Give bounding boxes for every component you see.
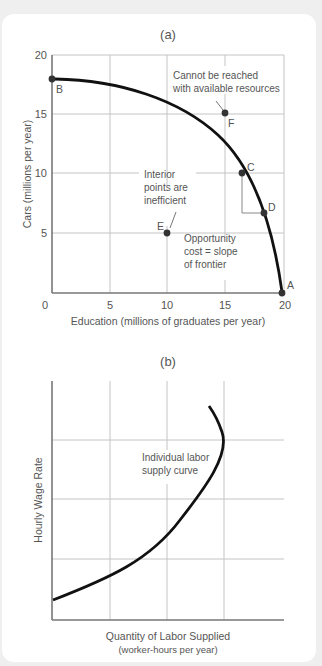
opportunity-cost-bracket	[242, 173, 264, 213]
note-opportunity-line2: cost = slope	[184, 246, 238, 257]
note-opportunity-line3: of frontier	[184, 259, 227, 270]
x-tick-0: 0	[42, 299, 48, 311]
label-d: D	[268, 201, 276, 213]
curve-label-line1: Individual labor	[142, 452, 210, 463]
label-a: A	[287, 279, 294, 291]
y-tick-20: 20	[35, 49, 47, 61]
note-interior-line1: Interior	[144, 169, 176, 180]
grid-b	[52, 381, 284, 620]
note-unreachable-line1: Cannot be reached	[173, 70, 258, 81]
label-f: F	[228, 117, 234, 129]
chart-b: (b) Individual labor supply curve Hourly…	[32, 354, 284, 655]
x-tick-15: 15	[219, 299, 231, 311]
label-e: E	[157, 220, 164, 232]
y-tick-15: 15	[35, 108, 47, 120]
figure-svg: (a) 20 15 10 5 0 5 10 15 20	[0, 0, 322, 666]
label-b: B	[56, 83, 63, 95]
note-interior-line3: inefficient	[144, 195, 186, 206]
y-tick-5: 5	[41, 227, 47, 239]
point-b	[49, 76, 56, 83]
note-unreachable-line2: with available resources	[172, 83, 280, 94]
point-a	[279, 290, 286, 297]
labor-supply-curve	[53, 406, 224, 600]
x-tick-20: 20	[279, 299, 291, 311]
chart-a: (a) 20 15 10 5 0 5 10 15 20	[21, 27, 294, 327]
y-axis-label-a: Cars (millions per year)	[21, 120, 33, 229]
curve-label-line2: supply curve	[142, 465, 199, 476]
point-d	[261, 210, 268, 217]
note-interior-line2: points are	[144, 182, 188, 193]
y-tick-10: 10	[35, 167, 47, 179]
note-opportunity-line1: Opportunity	[184, 233, 236, 244]
y-axis-label-b: Hourly Wage Rate	[32, 457, 44, 543]
pointer-f	[216, 101, 223, 110]
x-axis-sublabel-b: (worker-hours per year)	[118, 644, 217, 655]
x-tick-5: 5	[107, 299, 113, 311]
x-tick-10: 10	[161, 299, 173, 311]
point-c	[239, 170, 246, 177]
point-f	[222, 110, 229, 117]
panel-b-label: (b)	[160, 354, 176, 369]
panel-a-label: (a)	[160, 27, 176, 42]
x-axis-label-b: Quantity of Labor Supplied	[106, 630, 230, 642]
x-axis-label-a: Education (millions of graduates per yea…	[71, 315, 265, 327]
point-e	[164, 230, 171, 237]
label-c: C	[247, 161, 255, 173]
